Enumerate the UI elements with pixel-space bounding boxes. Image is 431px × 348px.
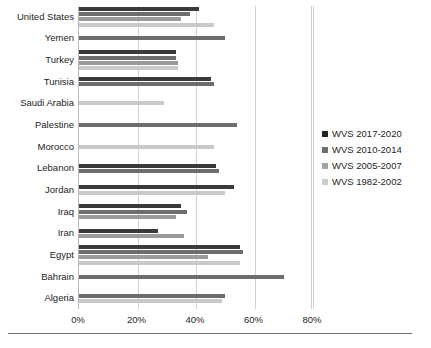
x-tick-label: 60% xyxy=(244,314,263,325)
y-axis-label: Turkey xyxy=(0,55,74,65)
bar xyxy=(79,82,214,86)
bar xyxy=(79,56,176,60)
bar-group xyxy=(79,6,431,28)
y-axis-category-labels: United StatesYemenTurkeyTunisiaSaudi Ara… xyxy=(0,6,74,309)
bar-group xyxy=(79,222,431,244)
bar-group xyxy=(79,93,431,115)
y-axis-label: Lebanon xyxy=(0,163,74,173)
y-axis-label: United States xyxy=(0,12,74,22)
bar xyxy=(79,215,176,219)
y-axis-label: Iran xyxy=(0,228,74,238)
x-tick-label: 40% xyxy=(185,314,204,325)
legend-swatch-icon xyxy=(322,163,328,169)
bar xyxy=(79,23,214,27)
bar-group xyxy=(79,71,431,93)
legend-item[interactable]: WVS 2017-2020 xyxy=(322,126,427,142)
bar-group xyxy=(79,287,431,309)
legend-label: WVS 2017-2020 xyxy=(332,129,402,139)
y-axis-label: Palestine xyxy=(0,120,74,130)
bar xyxy=(79,17,181,21)
legend-swatch-icon xyxy=(322,179,328,185)
y-axis-label: Algeria xyxy=(0,293,74,303)
x-tick-label: 0% xyxy=(71,314,85,325)
bar xyxy=(79,185,234,189)
bar xyxy=(79,169,219,173)
y-axis-label: Iraq xyxy=(0,207,74,217)
legend-label: WVS 1982-2002 xyxy=(332,177,402,187)
bar xyxy=(79,299,222,303)
bar xyxy=(79,210,187,214)
x-tick-label: 20% xyxy=(127,314,146,325)
bar xyxy=(79,294,225,298)
y-axis-label: Tunisia xyxy=(0,77,74,87)
bar xyxy=(79,229,158,233)
bar-group xyxy=(79,28,431,50)
axis-bottom-rule xyxy=(8,333,412,334)
legend-swatch-icon xyxy=(322,147,328,153)
bar xyxy=(79,36,225,40)
y-axis-label: Egypt xyxy=(0,250,74,260)
bar xyxy=(79,164,216,168)
y-axis-label: Morocco xyxy=(0,142,74,152)
y-axis-label: Jordan xyxy=(0,185,74,195)
x-tick-label: 80% xyxy=(302,314,321,325)
bar xyxy=(79,255,208,259)
bar xyxy=(79,77,211,81)
bar xyxy=(79,191,225,195)
legend-label: WVS 2005-2007 xyxy=(332,161,402,171)
bar-group xyxy=(79,201,431,223)
legend-swatch-icon xyxy=(322,131,328,137)
y-axis-label: Saudi Arabia xyxy=(0,98,74,108)
bar xyxy=(79,261,240,265)
legend-label: WVS 2010-2014 xyxy=(332,145,402,155)
bar-group xyxy=(79,244,431,266)
bar xyxy=(79,245,240,249)
bar xyxy=(79,101,164,105)
bar xyxy=(79,123,237,127)
legend-item[interactable]: WVS 2010-2014 xyxy=(322,142,427,158)
bar xyxy=(79,61,178,65)
y-axis-label: Bahrain xyxy=(0,272,74,282)
bar xyxy=(79,250,243,254)
bar xyxy=(79,145,214,149)
bar-group xyxy=(79,266,431,288)
bar-chart: United StatesYemenTurkeyTunisiaSaudi Ara… xyxy=(0,0,431,348)
bar xyxy=(79,12,190,16)
bar xyxy=(79,275,284,279)
bar xyxy=(79,204,181,208)
legend-item[interactable]: WVS 2005-2007 xyxy=(322,158,427,174)
bar xyxy=(79,50,176,54)
bar-group xyxy=(79,49,431,71)
legend-item[interactable]: WVS 1982-2002 xyxy=(322,174,427,190)
bar xyxy=(79,234,184,238)
bar xyxy=(79,7,199,11)
bar xyxy=(79,66,178,70)
x-axis-tick-labels: 0%20%40%60%80% xyxy=(0,312,431,330)
plot-area xyxy=(78,6,312,309)
chart-legend: WVS 2017-2020WVS 2010-2014WVS 2005-2007W… xyxy=(322,126,427,190)
y-axis-label: Yemen xyxy=(0,33,74,43)
